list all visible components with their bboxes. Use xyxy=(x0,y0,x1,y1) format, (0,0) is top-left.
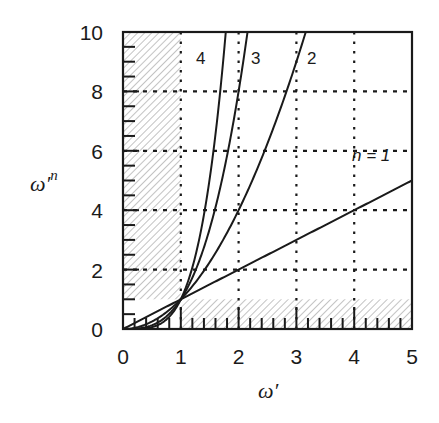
y-tick-label: 8 xyxy=(91,80,103,103)
curve-label-n1: n = 1 xyxy=(352,146,390,165)
x-axis-label: ω′ xyxy=(258,378,280,403)
y-tick-label: 10 xyxy=(80,21,103,44)
x-tick-label: 4 xyxy=(348,345,360,368)
hatched-regions xyxy=(123,32,412,329)
x-tick-label: 5 xyxy=(406,345,418,368)
x-tick-label: 1 xyxy=(175,345,187,368)
curve-label-n3: 3 xyxy=(251,49,260,68)
x-tick-label: 2 xyxy=(233,345,245,368)
y-tick-label: 2 xyxy=(91,259,103,282)
y-axis-label-base: ω′ xyxy=(30,171,52,196)
y-axis-label-exponent: n xyxy=(50,167,58,183)
chart: 0123450246810 4 3 2 n = 1 ω′ ω′n xyxy=(0,0,439,423)
y-tick-label: 0 xyxy=(91,318,103,341)
curve-label-n4: 4 xyxy=(196,49,205,68)
y-tick-label: 6 xyxy=(91,140,103,163)
x-tick-label: 0 xyxy=(117,345,129,368)
y-tick-label: 4 xyxy=(91,199,103,222)
x-tick-label: 3 xyxy=(291,345,303,368)
y-axis-label: ω′n xyxy=(30,167,58,196)
curve-label-n2: 2 xyxy=(307,49,316,68)
